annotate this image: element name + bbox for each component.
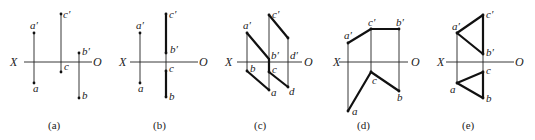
label-c: c bbox=[486, 64, 491, 76]
point-b bbox=[165, 96, 168, 99]
label-a: a bbox=[352, 105, 358, 117]
point-a bbox=[456, 82, 459, 85]
panel-b: X O a′ a c′ b′ c b (b) bbox=[118, 8, 208, 132]
point-c bbox=[165, 70, 168, 73]
label-d: d bbox=[289, 85, 295, 97]
point-b bbox=[482, 97, 485, 100]
point-c-prime bbox=[60, 13, 63, 16]
label-b-prime: b′ bbox=[486, 46, 495, 58]
label-a: a bbox=[271, 86, 277, 98]
point-a-prime bbox=[139, 32, 142, 35]
label-c-prime: c′ bbox=[169, 8, 177, 20]
panel-a: X O a′ a c′ c b′ b (a) bbox=[9, 8, 102, 132]
caption-a: (a) bbox=[48, 119, 61, 132]
label-a-prime: a′ bbox=[136, 19, 145, 31]
label-b-prime: b′ bbox=[170, 43, 179, 55]
point-a-prime bbox=[246, 32, 249, 35]
label-a: a bbox=[138, 82, 144, 94]
caption-c: (c) bbox=[254, 119, 267, 132]
label-b: b bbox=[82, 89, 88, 101]
label-c: c bbox=[64, 60, 69, 72]
axis-x-label: X bbox=[118, 55, 127, 69]
label-a: a bbox=[450, 83, 456, 95]
axis-x-label: X bbox=[436, 55, 445, 69]
point-a bbox=[268, 89, 271, 92]
label-d-prime: d′ bbox=[290, 49, 299, 61]
point-b-prime bbox=[78, 52, 81, 55]
point-c bbox=[60, 71, 63, 74]
point-c-prime bbox=[370, 28, 373, 31]
line-a-prime-c-prime bbox=[457, 15, 483, 33]
label-a-prime: a′ bbox=[452, 20, 461, 32]
axis-x-label: X bbox=[224, 55, 233, 69]
label-a-prime: a′ bbox=[344, 29, 353, 41]
point-c bbox=[482, 71, 485, 74]
line-a-b bbox=[457, 83, 483, 98]
label-c-prime: c′ bbox=[272, 8, 280, 20]
label-b-prime: b′ bbox=[271, 49, 280, 61]
point-b-prime bbox=[482, 53, 485, 56]
axis-o-label: O bbox=[304, 55, 313, 69]
label-a: a bbox=[33, 82, 39, 94]
label-a-prime: a′ bbox=[243, 19, 252, 31]
point-a-prime bbox=[347, 42, 350, 45]
label-b-prime: b′ bbox=[396, 16, 405, 28]
label-c: c bbox=[169, 62, 174, 74]
label-b: b bbox=[169, 90, 175, 102]
axis-x-label: X bbox=[332, 55, 341, 69]
point-c bbox=[370, 71, 373, 74]
axis-o-label: O bbox=[411, 55, 420, 69]
point-b bbox=[78, 97, 81, 100]
line-a-prime-b-prime bbox=[247, 33, 269, 59]
point-b bbox=[246, 70, 249, 73]
point-a-prime bbox=[33, 32, 36, 35]
caption-e: (e) bbox=[462, 119, 475, 132]
line-a-prime-b-prime bbox=[457, 33, 483, 54]
label-c-prime: c′ bbox=[63, 8, 71, 20]
line-a-c bbox=[457, 72, 483, 83]
point-b-prime bbox=[165, 52, 168, 55]
label-c-prime: c′ bbox=[368, 16, 376, 28]
label-c: c bbox=[372, 74, 377, 86]
point-a bbox=[347, 110, 350, 113]
caption-b: (b) bbox=[153, 119, 166, 132]
label-b-prime: b′ bbox=[82, 45, 91, 57]
point-c-prime bbox=[165, 13, 168, 16]
point-c bbox=[268, 71, 271, 74]
panel-d: X O a′ c′ b′ c b a (d) bbox=[332, 16, 420, 132]
axis-o-label: O bbox=[515, 55, 524, 69]
point-c-prime bbox=[268, 14, 271, 17]
caption-d: (d) bbox=[357, 119, 370, 132]
label-a-prime: a′ bbox=[30, 19, 39, 31]
label-c-prime: c′ bbox=[486, 8, 494, 20]
label-b: b bbox=[397, 91, 403, 103]
label-b: b bbox=[486, 92, 492, 104]
label-c: c bbox=[272, 63, 277, 75]
panel-c: X O a′ c′ b′ d′ b c a d (c) bbox=[224, 8, 313, 132]
point-b-prime bbox=[398, 28, 401, 31]
axis-x-label: X bbox=[9, 55, 18, 69]
axis-o-label: O bbox=[93, 55, 102, 69]
point-d-prime bbox=[287, 37, 290, 40]
point-c-prime bbox=[482, 14, 485, 17]
label-b: b bbox=[250, 62, 256, 74]
projection-diagram: X O a′ a c′ c b′ b (a) X O a′ a bbox=[0, 0, 535, 140]
point-a-prime bbox=[456, 32, 459, 35]
axis-o-label: O bbox=[199, 55, 208, 69]
panel-e: X O a′ c′ b′ c a b (e) bbox=[436, 8, 524, 132]
